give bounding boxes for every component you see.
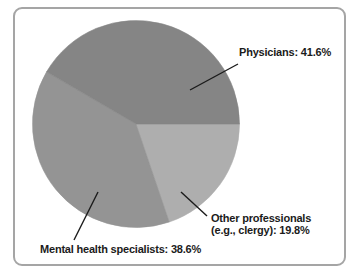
figure: Physicians: 41.6% Other professionals (e… (0, 0, 355, 279)
label-other-professionals-line2: (e.g., clergy): 19.8% (211, 224, 311, 236)
pie-slices (32, 20, 239, 227)
label-other-professionals: Other professionals (e.g., clergy): 19.8… (211, 212, 311, 236)
label-mental-health-specialists: Mental health specialists: 38.6% (40, 243, 201, 255)
label-other-professionals-line1: Other professionals (211, 212, 311, 224)
pie-chart (0, 0, 355, 279)
label-physicians: Physicians: 41.6% (239, 46, 331, 58)
